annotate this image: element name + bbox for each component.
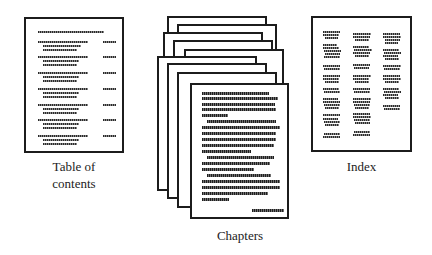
toc-page bbox=[24, 17, 124, 153]
toc-title-line bbox=[38, 31, 104, 33]
chapters-label: Chapters bbox=[190, 227, 290, 244]
index-label: Index bbox=[311, 158, 412, 175]
index-page bbox=[311, 16, 412, 152]
chapter-page-front bbox=[190, 83, 289, 219]
toc-label-line2: contents bbox=[24, 175, 124, 192]
page-number-line bbox=[252, 209, 284, 212]
toc-label: Table of contents bbox=[24, 158, 124, 192]
toc-label-line1: Table of bbox=[24, 158, 124, 175]
